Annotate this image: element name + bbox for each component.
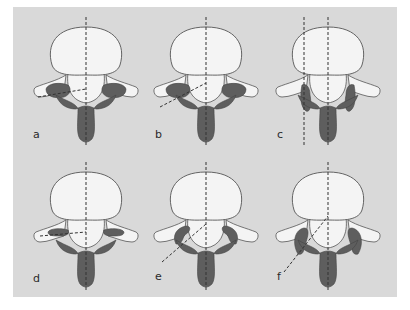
panel-label-f: f [277, 270, 281, 283]
vertebra-b [154, 17, 258, 147]
vertebra-e [154, 162, 258, 292]
vertebra-d [34, 162, 138, 292]
facet-right [102, 83, 126, 97]
vertebra-diagram [0, 0, 410, 310]
panel-label-b: b [155, 128, 162, 141]
vertebra-f [276, 162, 380, 292]
facet-right [222, 83, 246, 97]
facet-left [166, 83, 190, 97]
panel-label-c: c [277, 128, 283, 141]
facet-right [103, 229, 124, 236]
panel-label-d: d [33, 272, 40, 285]
panel-label-a: a [33, 128, 40, 141]
panel-label-e: e [155, 270, 162, 283]
vertebra-c [276, 17, 380, 147]
vertebra-a [34, 17, 138, 147]
